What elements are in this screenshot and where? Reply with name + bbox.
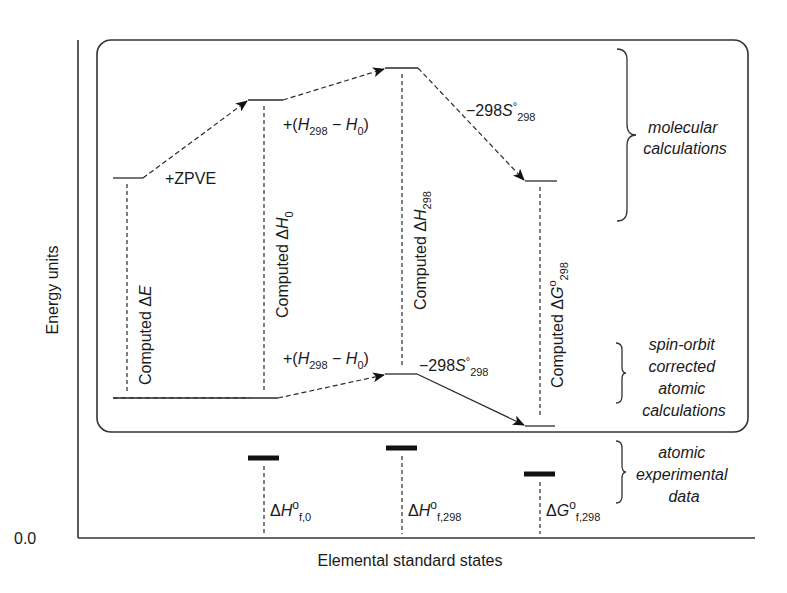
y-axis-label: Energy units: [44, 246, 61, 335]
label-computed-dH0: Computed ΔH0: [274, 211, 295, 318]
arrow-thermal-molecular: [283, 69, 384, 100]
label-exp-dHf298: ΔHof,298: [408, 498, 461, 523]
y-axis-zero-label: 0.0: [14, 530, 36, 547]
group-label-experimental: atomic experimental data: [636, 444, 732, 505]
thermochemistry-energy-diagram: 0.0 Energy units Elemental standard stat…: [0, 0, 787, 593]
group-label-molecular: molecular calculations: [643, 119, 727, 157]
label-exp-dGf298: ΔGof,298: [546, 498, 600, 523]
x-axis-label: Elemental standard states: [318, 552, 503, 569]
group-label-spin-orbit: spin-orbit corrected atomic calculations: [642, 336, 726, 419]
label-zpve: +ZPVE: [165, 170, 216, 187]
label-computed-dG298: Computed ΔGo298: [546, 262, 570, 388]
label-computed-dH298: Computed ΔH298: [412, 191, 433, 310]
brace-experimental: [616, 441, 626, 503]
arrow-entropy-atomic: [417, 374, 524, 425]
brace-spin-orbit: [616, 343, 626, 403]
label-thermal-atomic: +(H298 − H0): [283, 350, 369, 371]
arrow-entropy-molecular: [418, 68, 524, 180]
label-thermal-molecular: +(H298 − H0): [283, 116, 369, 137]
label-entropy-molecular: −298S°298: [466, 100, 535, 123]
label-computed-dE: Computed ΔE: [137, 285, 154, 385]
arrow-thermal-atomic: [278, 375, 384, 398]
brace-molecular: [617, 49, 636, 221]
label-entropy-atomic: −298S°298: [419, 355, 488, 378]
label-exp-dHf0: ΔHof,0: [270, 498, 311, 523]
arrow-zpve: [143, 101, 247, 178]
